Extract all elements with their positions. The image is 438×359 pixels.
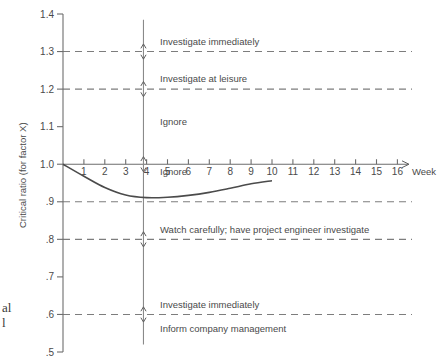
x-tick-label-13: 13 — [329, 166, 341, 177]
y-tick-label-.8: .8 — [46, 234, 55, 245]
y-axis-title: Critical ratio (for factor X) — [17, 122, 28, 228]
zone-label-3: Ignore — [160, 166, 187, 177]
critical-ratio-chart-figure: 1.41.31.21.11.0.9.8.7.6.5Critical ratio … — [0, 0, 438, 359]
caption-fragment-line-2: l — [2, 315, 6, 330]
y-tick-label-.5: .5 — [46, 347, 55, 358]
x-tick-label-3: 3 — [123, 166, 129, 177]
y-tick-label-.6: .6 — [46, 309, 55, 320]
chart-canvas: 1.41.31.21.11.0.9.8.7.6.5Critical ratio … — [0, 0, 438, 359]
zone-label-6: Inform company management — [160, 323, 287, 334]
y-tick-label-.7: .7 — [46, 271, 55, 282]
zone-label-2: Ignore — [160, 116, 187, 127]
x-tick-label-9: 9 — [248, 166, 254, 177]
zone-label-0: Investigate immediately — [160, 36, 260, 47]
y-tick-label-.9: .9 — [46, 196, 55, 207]
x-tick-label-16: 16 — [392, 166, 404, 177]
zone-label-1: Investigate at leisure — [160, 73, 247, 84]
zone-label-5: Investigate immediately — [160, 299, 260, 310]
x-tick-label-10: 10 — [266, 166, 278, 177]
caption-fragment-line-1: al — [2, 300, 12, 315]
zone-label-4: Watch carefully; have project engineer i… — [160, 224, 369, 235]
y-tick-label-1.4: 1.4 — [40, 9, 54, 20]
x-tick-label-4: 4 — [144, 166, 150, 177]
x-tick-label-2: 2 — [102, 166, 108, 177]
x-tick-label-11: 11 — [288, 166, 299, 177]
x-tick-label-15: 15 — [371, 166, 383, 177]
y-tick-label-1.3: 1.3 — [40, 46, 54, 57]
y-tick-label-1.0: 1.0 — [40, 159, 54, 170]
x-axis-title: Week — [412, 166, 436, 177]
x-tick-label-14: 14 — [350, 166, 362, 177]
x-tick-label-7: 7 — [207, 166, 213, 177]
y-tick-label-1.1: 1.1 — [40, 121, 54, 132]
x-tick-label-12: 12 — [308, 166, 320, 177]
y-tick-label-1.2: 1.2 — [40, 84, 54, 95]
x-tick-label-8: 8 — [227, 166, 233, 177]
